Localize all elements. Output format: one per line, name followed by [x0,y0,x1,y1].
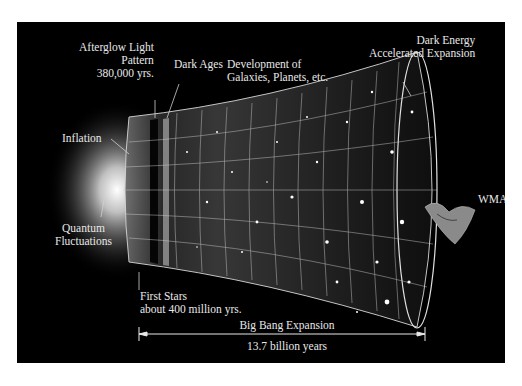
label-first-stars: First Stars about 400 million yrs. [140,290,242,316]
label-afterglow-line3: 380,000 yrs. [79,67,154,80]
label-afterglow: Afterglow Light Pattern 380,000 yrs. [79,41,154,80]
label-afterglow-line2: Pattern [79,54,154,67]
label-quantum-line1: Quantum [55,222,112,235]
label-development: Development of Galaxies, Planets, etc. [227,58,328,84]
label-dark-energy-line2: Accelerated Expansion [369,47,475,60]
label-dark-ages: Dark Ages [174,58,223,71]
label-big-bang-expansion: Big Bang Expansion [222,319,352,332]
label-quantum-fluctuations: Quantum Fluctuations [55,222,112,248]
label-first-stars-line2: about 400 million yrs. [140,303,242,316]
cone-body [125,52,432,327]
label-quantum-line2: Fluctuations [55,235,112,248]
label-development-line1: Development of [227,58,328,71]
label-dark-energy: Dark Energy Accelerated Expansion [369,34,475,60]
label-development-line2: Galaxies, Planets, etc. [227,71,328,84]
label-afterglow-line1: Afterglow Light [79,41,154,54]
label-wmap: WMAP [478,193,505,206]
label-duration: 13.7 billion years [222,340,352,353]
label-dark-energy-line1: Dark Energy [369,34,475,47]
wmap-satellite-icon [425,203,475,244]
universe-timeline-diagram: Afterglow Light Pattern 380,000 yrs. Dar… [17,22,505,363]
label-inflation: Inflation [62,132,102,145]
label-first-stars-line1: First Stars [140,290,242,303]
